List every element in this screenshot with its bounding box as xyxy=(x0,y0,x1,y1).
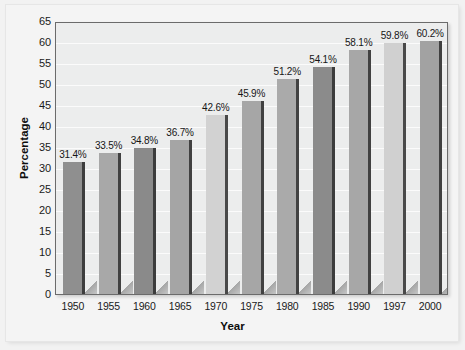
x-axis-tick-label: 2000 xyxy=(409,300,451,312)
bar-value-label: 51.2% xyxy=(266,66,308,77)
bar-shadow xyxy=(191,281,204,294)
bar-shadow xyxy=(370,281,383,294)
bar-right-edge xyxy=(403,43,406,294)
y-axis-tick-label: 65 xyxy=(5,16,51,27)
bar-value-label: 60.2% xyxy=(409,28,451,39)
bar[interactable] xyxy=(134,148,156,294)
y-axis-tick-label: 50 xyxy=(5,79,51,90)
bar[interactable] xyxy=(99,153,121,294)
bar[interactable] xyxy=(277,79,299,294)
bar-right-edge xyxy=(332,67,335,294)
bar[interactable] xyxy=(206,115,228,294)
bar-right-edge xyxy=(153,148,156,294)
bar-shadow xyxy=(120,281,133,294)
bar-right-edge xyxy=(118,153,121,294)
bar-shadow xyxy=(155,281,168,294)
gridline xyxy=(56,22,447,23)
bar[interactable] xyxy=(349,50,371,294)
bar-right-edge xyxy=(296,79,299,294)
y-axis-tick-label: 15 xyxy=(5,226,51,237)
bar-right-edge xyxy=(368,50,371,294)
bar-value-label: 54.1% xyxy=(302,54,344,65)
y-axis-tick-label: 0 xyxy=(5,289,51,300)
y-axis-tick-label: 55 xyxy=(5,58,51,69)
bar-shadow xyxy=(405,281,418,294)
bar-shadow xyxy=(84,281,97,294)
bar[interactable] xyxy=(384,43,406,294)
bar-value-label: 45.9% xyxy=(231,88,273,99)
y-axis-tick-label: 5 xyxy=(5,268,51,279)
bar[interactable] xyxy=(170,140,192,294)
x-axis-title: Year xyxy=(0,320,465,332)
bar-right-edge xyxy=(189,140,192,294)
chart-figure: 05101520253035404550556065 1950195519601… xyxy=(0,0,465,350)
bar-right-edge xyxy=(82,162,85,294)
bar-right-edge xyxy=(261,101,264,294)
bar[interactable] xyxy=(420,41,442,294)
y-axis-title: Percentage xyxy=(18,108,30,188)
bar[interactable] xyxy=(313,67,335,294)
bar-shadow xyxy=(263,281,276,294)
y-axis-tick-label: 10 xyxy=(5,247,51,258)
bar[interactable] xyxy=(63,162,85,294)
bar-chart: 05101520253035404550556065 1950195519601… xyxy=(0,0,465,350)
bar-right-edge xyxy=(225,115,228,294)
bar-value-label: 42.6% xyxy=(195,102,237,113)
bar-shadow xyxy=(298,281,311,294)
bar-shadow xyxy=(334,281,347,294)
bar-shadow xyxy=(441,281,448,294)
bar-shadow xyxy=(227,281,240,294)
bar-right-edge xyxy=(439,41,442,294)
bar[interactable] xyxy=(242,101,264,294)
plot-area xyxy=(55,22,448,295)
y-axis-tick-label: 60 xyxy=(5,37,51,48)
y-axis-tick-label: 20 xyxy=(5,205,51,216)
bar-value-label: 36.7% xyxy=(159,127,201,138)
